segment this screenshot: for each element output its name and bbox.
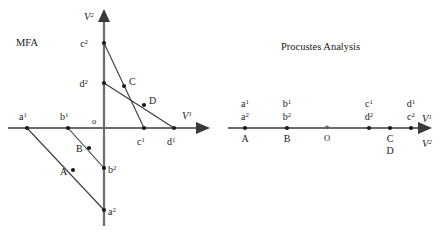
point-right-CD-right	[409, 126, 413, 130]
label-b1-sup: 1	[65, 111, 68, 118]
point-a1	[25, 126, 29, 130]
point-right-CD-mid	[388, 126, 392, 130]
label-right-c1-sup: 1	[370, 98, 373, 105]
right-x-axis-label-sup: 1	[428, 113, 431, 120]
point-c1	[142, 126, 146, 130]
point-right-A	[243, 126, 247, 130]
label-right-D: D	[386, 145, 393, 156]
label-b2: b2	[108, 164, 117, 176]
point-C	[122, 84, 126, 88]
label-right-b2: b2	[283, 111, 292, 123]
right-x-axis-label: V1	[422, 113, 432, 125]
connector-d	[104, 83, 174, 128]
label-right-a1-sup: 1	[246, 98, 249, 105]
right-origin-cross: +	[324, 121, 329, 131]
label-c1: c1	[137, 136, 145, 148]
label-right-d1: d1	[407, 98, 415, 110]
left-x-axis-arrowhead	[196, 122, 210, 134]
label-b2-sup: 2	[113, 164, 117, 171]
connector-b	[68, 128, 104, 168]
label-right-A: A	[241, 133, 249, 144]
label-right-b2-sup: 2	[288, 111, 292, 118]
label-right-a2-sup: 2	[246, 111, 250, 118]
right-panel-group: Procustes Analysis + O V1 V2 a1 a2 A b1 …	[228, 41, 432, 156]
label-right-b1: b1	[283, 98, 291, 110]
left-origin-label: o	[92, 116, 96, 126]
label-right-b1-sup: 1	[288, 98, 291, 105]
label-c2: c2	[80, 38, 88, 50]
left-y-axis-label: V2	[84, 11, 94, 23]
left-x-axis-label-sup: 1	[188, 110, 191, 117]
label-right-d2-sup: 2	[370, 111, 374, 118]
right-y-axis-label: V2	[422, 138, 432, 150]
point-a2	[102, 208, 106, 212]
label-c1-sup: 1	[141, 136, 144, 143]
right-panel-title: Procustes Analysis	[281, 41, 360, 52]
left-panel-group: MFA o V1 V2 a1 b1 c1 d1 a2 b2 c2 d2 A B …	[8, 9, 210, 226]
figure-canvas: MFA o V1 V2 a1 b1 c1 d1 a2 b2 c2 d2 A B …	[0, 0, 447, 237]
label-d1-sup: 1	[172, 136, 175, 143]
point-d1	[172, 126, 176, 130]
left-panel-title: MFA	[16, 37, 38, 48]
label-A: A	[60, 166, 68, 177]
label-a2: a2	[108, 206, 116, 218]
figure-root: MFA o V1 V2 a1 b1 c1 d1 a2 b2 c2 d2 A B …	[0, 0, 447, 237]
label-right-c2: c2	[407, 111, 415, 123]
label-right-c1: c1	[365, 98, 373, 110]
point-b1	[66, 126, 70, 130]
label-a1-sup: 1	[23, 111, 26, 118]
left-y-axis-label-sup: 2	[90, 11, 94, 18]
label-D: D	[149, 95, 156, 106]
point-right-B	[285, 126, 289, 130]
label-a1: a1	[19, 111, 27, 123]
label-right-a2: a2	[241, 111, 249, 123]
label-right-B: B	[284, 133, 291, 144]
point-A	[71, 168, 75, 172]
label-c2-sup: 2	[85, 38, 89, 45]
point-c2	[102, 41, 106, 45]
label-a2-sup: 2	[112, 206, 116, 213]
label-right-d2: d2	[365, 111, 374, 123]
label-d2-sup: 2	[85, 78, 89, 85]
left-y-axis-arrowhead	[98, 9, 110, 22]
label-right-C: C	[387, 133, 394, 144]
label-C: C	[129, 76, 136, 87]
right-y-axis-label-sup: 2	[428, 138, 432, 145]
point-right-CD-left	[367, 126, 371, 130]
point-d2	[102, 81, 106, 85]
label-d1: d1	[167, 136, 175, 148]
label-right-d1-sup: 1	[412, 98, 415, 105]
label-d2: d2	[80, 78, 89, 90]
label-b1: b1	[60, 111, 68, 123]
label-B: B	[76, 143, 83, 154]
point-D	[142, 103, 146, 107]
label-right-c2-sup: 2	[412, 111, 416, 118]
right-origin-label: O	[324, 133, 330, 143]
point-b2	[102, 166, 106, 170]
point-B	[87, 146, 91, 150]
left-x-axis-label: V1	[182, 110, 192, 122]
label-right-a1: a1	[241, 98, 249, 110]
